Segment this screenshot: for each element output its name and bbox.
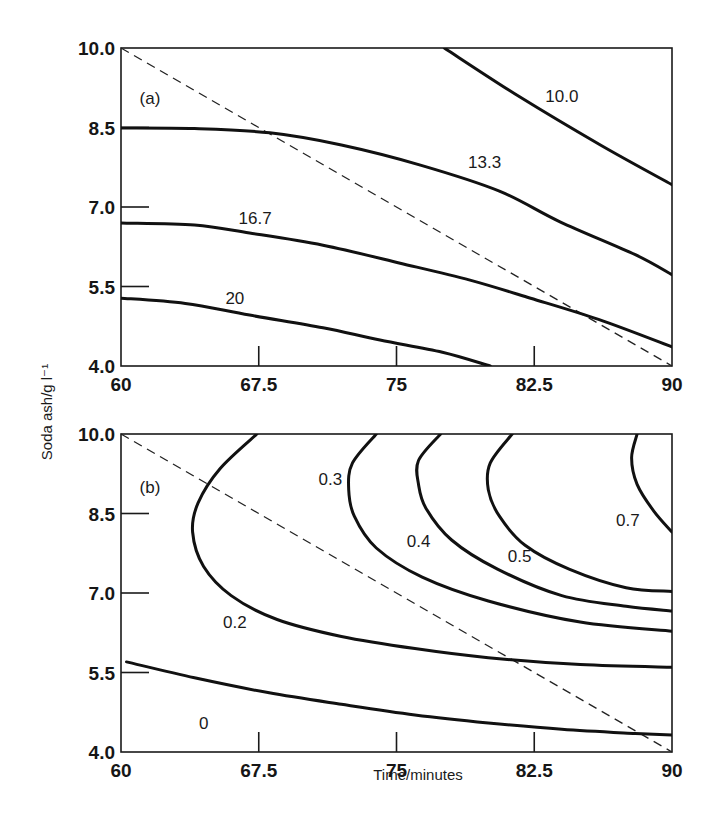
contour-label: 0.7 [616,511,640,530]
contour-figure: 4.05.57.08.510.06067.57582.59010.013.316… [0,0,719,839]
dashed-reference-line [121,48,672,366]
x-tick-label: 67.5 [240,760,277,781]
contour-line-0-2 [192,434,672,667]
y-tick-label: 7.0 [89,583,115,604]
x-tick-label: 82.5 [516,760,553,781]
x-tick-label: 82.5 [516,374,553,395]
dashed-reference-line [121,434,672,752]
contour-label: 0 [199,714,208,733]
y-axis-title: Soda ash/g l⁻¹ [38,364,55,460]
x-axis-title: Time/minutes [373,766,462,783]
panel-label: (a) [140,89,161,108]
contour-line-16-7 [121,223,672,347]
y-tick-label: 5.5 [89,277,116,298]
contour-line-13-3 [121,128,672,275]
contour-label: 0.5 [508,547,532,566]
y-tick-label: 7.0 [89,197,115,218]
panel-label: (b) [140,478,161,497]
contour-label: 16.7 [239,209,272,228]
y-tick-label: 10.0 [78,38,115,59]
x-tick-label: 67.5 [240,374,277,395]
contour-label: 0.2 [223,613,247,632]
y-tick-label: 10.0 [78,424,115,445]
contour-label: 13.3 [468,153,501,172]
panel-a-contour-plot: 4.05.57.08.510.06067.57582.59010.013.316… [78,38,683,395]
x-tick-label: 90 [661,374,682,395]
x-tick-label: 60 [110,374,131,395]
x-tick-label: 75 [386,374,408,395]
x-tick-label: 60 [110,760,131,781]
contour-line-0-5 [487,434,672,591]
y-tick-label: 8.5 [89,504,116,525]
contour-label: 0.3 [319,470,343,489]
x-tick-label: 90 [661,760,682,781]
contour-label: 20 [225,289,244,308]
y-tick-label: 5.5 [89,663,116,684]
contour-label: 10.0 [545,87,578,106]
panel-b-contour-plot: 4.05.57.08.510.06067.57582.59000.20.30.4… [78,424,683,781]
contour-label: 0.4 [407,532,431,551]
y-tick-label: 8.5 [89,118,116,139]
contour-line-20 [121,298,490,366]
